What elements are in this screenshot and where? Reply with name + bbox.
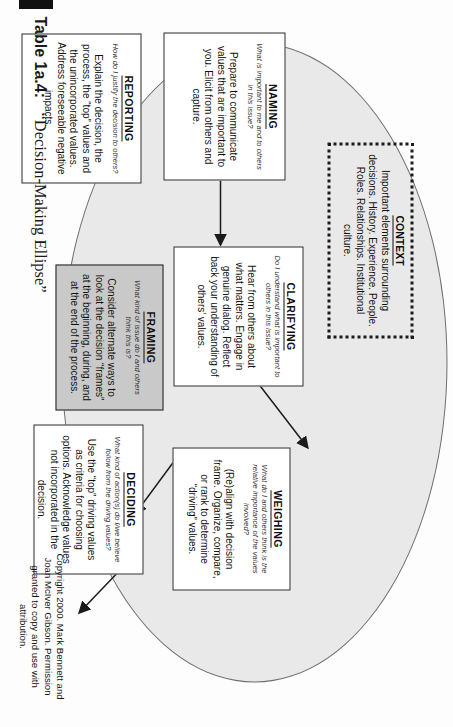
copyright-note: Copyright 2000. Mark Bennett and Joan Mc… bbox=[15, 551, 65, 701]
clarifying-box: CLARIFYING Do I understand what is impor… bbox=[173, 246, 303, 386]
clarifying-question: Do I understand what is important to oth… bbox=[262, 254, 280, 378]
clarifying-heading: CLARIFYING bbox=[284, 254, 296, 378]
reporting-question: How do I justify the decision to others? bbox=[109, 41, 118, 175]
naming-question: What is important to me and to others in… bbox=[244, 40, 262, 172]
deciding-heading: DECIDING bbox=[124, 432, 136, 566]
weighing-question: What do I and others think is the relati… bbox=[240, 455, 267, 582]
clarifying-body: Hear from others about what matters. Eng… bbox=[194, 254, 257, 378]
naming-body: Prepare to communicate values that are i… bbox=[188, 40, 238, 172]
table-label: Table 1a.4: bbox=[31, 16, 48, 98]
deciding-body: Use the “top” driving values as criteria… bbox=[34, 432, 97, 566]
framing-heading: FRAMING bbox=[144, 272, 156, 402]
framing-question: What kind of issue do I and others think… bbox=[122, 272, 140, 402]
deciding-question: What kind of action(s) do I/we believe f… bbox=[102, 432, 120, 566]
reporting-body: Explain the decision, the process, the “… bbox=[41, 41, 104, 175]
context-body: Important elements surrounding decisions… bbox=[340, 151, 390, 329]
weighing-box: WEIGHING What do I and others think is t… bbox=[172, 447, 290, 590]
page-title: Table 1a.4: “Decision-Making Ellipse” bbox=[29, 16, 49, 292]
weighing-heading: WEIGHING bbox=[271, 455, 283, 582]
reporting-heading: REPORTING bbox=[122, 41, 134, 175]
weighing-body: (Re)align with decision frame. Organize,… bbox=[184, 455, 234, 582]
context-heading: CONTEXT bbox=[393, 151, 405, 329]
framing-box: FRAMING What kind of issue do I and othe… bbox=[55, 264, 163, 410]
naming-box: NAMING What is important to me and to ot… bbox=[163, 32, 285, 180]
figure-page: CONTEXT Important elements surrounding d… bbox=[0, 0, 453, 727]
figure-title: “Decision-Making Ellipse” bbox=[30, 112, 49, 292]
framing-body: Consider alternate ways to look at the d… bbox=[66, 272, 116, 402]
context-box: CONTEXT Important elements surrounding d… bbox=[327, 142, 413, 338]
naming-heading: NAMING bbox=[266, 40, 278, 172]
